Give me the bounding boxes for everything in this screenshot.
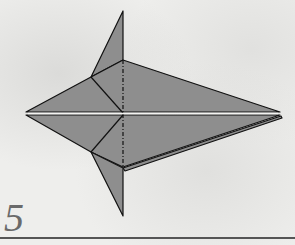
divider-line [0, 237, 295, 239]
origami-diagram [0, 0, 295, 245]
upper-body [26, 60, 280, 112]
step-number: 5 [4, 198, 24, 238]
